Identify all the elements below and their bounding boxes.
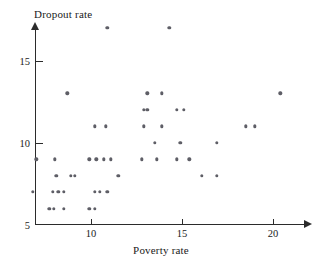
data-point	[244, 125, 247, 128]
data-point	[87, 157, 90, 160]
data-point	[160, 92, 163, 95]
x-axis-title: Poverty rate	[0, 244, 322, 256]
data-point	[93, 190, 96, 193]
data-point	[31, 190, 34, 193]
data-point	[102, 157, 105, 160]
data-point	[146, 108, 149, 111]
data-point	[160, 125, 163, 128]
data-point	[175, 157, 178, 160]
data-point	[153, 141, 156, 144]
data-point	[200, 174, 203, 177]
x-tick-label: 10	[86, 228, 97, 239]
data-point	[62, 190, 65, 193]
y-axis-arrow-icon	[31, 22, 39, 30]
data-point	[188, 157, 191, 160]
data-point	[57, 190, 60, 193]
data-point	[93, 207, 96, 210]
data-point	[215, 174, 218, 177]
data-point	[52, 207, 55, 210]
y-tick-label: 5	[14, 220, 30, 231]
data-point	[279, 92, 282, 95]
y-axis-line	[35, 30, 36, 225]
x-tick-mark	[182, 219, 183, 225]
x-axis-line	[35, 224, 306, 225]
data-point	[47, 207, 50, 210]
data-point	[140, 157, 143, 160]
y-tick-label: 10	[14, 137, 30, 148]
data-point	[35, 157, 38, 160]
data-point	[178, 141, 181, 144]
data-point	[98, 190, 101, 193]
x-tick-label: 20	[268, 228, 279, 239]
data-point	[87, 207, 90, 210]
data-point	[53, 157, 56, 160]
y-tick-mark	[36, 143, 43, 144]
data-point	[93, 125, 96, 128]
data-point	[215, 141, 218, 144]
data-point	[106, 190, 109, 193]
data-point	[155, 157, 158, 160]
data-point	[104, 125, 107, 128]
data-point	[109, 157, 112, 160]
y-tick-mark	[36, 61, 43, 62]
x-tick-mark	[91, 219, 92, 225]
x-axis-arrow-icon	[304, 220, 312, 228]
scatter-plot-figure: Dropout rate Poverty rate 101520 51015	[0, 0, 322, 271]
y-tick-label: 15	[14, 55, 30, 66]
data-point	[66, 92, 69, 95]
data-point	[117, 174, 120, 177]
data-point	[95, 157, 98, 160]
data-point	[182, 108, 185, 111]
x-tick-label: 15	[177, 228, 188, 239]
data-point	[106, 26, 109, 29]
data-point	[51, 190, 54, 193]
data-point	[168, 26, 171, 29]
data-point	[175, 108, 178, 111]
data-point	[253, 125, 256, 128]
y-axis-title: Dropout rate	[34, 8, 92, 20]
data-point	[73, 174, 76, 177]
data-point	[62, 207, 65, 210]
data-point	[146, 92, 149, 95]
data-point	[55, 174, 58, 177]
data-point	[142, 125, 145, 128]
x-tick-mark	[273, 219, 274, 225]
